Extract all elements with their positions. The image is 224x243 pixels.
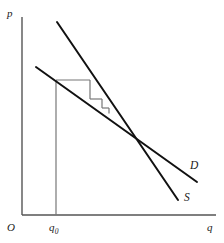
demand-curve	[36, 67, 197, 182]
diagram-canvas	[0, 0, 224, 243]
origin-label: O	[7, 222, 15, 233]
price-axis-label: p	[7, 8, 13, 19]
q0-base: q	[49, 221, 55, 233]
q0-subscript: 0	[55, 227, 59, 236]
cobweb-diagram-figure: p q O q0 D S	[0, 0, 224, 243]
supply-curve-label: S	[184, 192, 190, 204]
quantity-axis-label: q	[207, 222, 213, 233]
q0-tick-label: q0	[49, 222, 58, 233]
demand-curve-label: D	[190, 160, 198, 172]
supply-curve	[57, 22, 178, 200]
